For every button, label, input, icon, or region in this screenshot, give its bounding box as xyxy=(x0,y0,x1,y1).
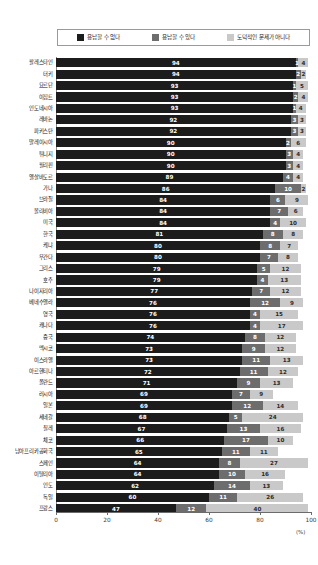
bar-segment-2[interactable]: 15 xyxy=(260,310,298,319)
bar-segment-0[interactable]: 86 xyxy=(56,184,275,193)
bar-segment-1[interactable]: 4 xyxy=(283,173,293,182)
bar-segment-1[interactable]: 4 xyxy=(270,218,280,227)
bar-segment-0[interactable]: 65 xyxy=(56,447,222,456)
bar-segment-1[interactable]: 10 xyxy=(219,470,245,479)
bar-segment-2[interactable]: 8 xyxy=(278,253,298,262)
bar-segment-2[interactable]: 24 xyxy=(242,413,303,422)
bar-segment-0[interactable]: 89 xyxy=(56,173,283,182)
legend-item-0[interactable]: 용납할 수 없다 xyxy=(77,34,120,41)
bar-segment-0[interactable]: 64 xyxy=(56,470,219,479)
bar-segment-0[interactable]: 74 xyxy=(56,333,245,342)
bar-segment-0[interactable]: 73 xyxy=(56,356,242,365)
bar-segment-0[interactable]: 76 xyxy=(56,321,250,330)
bar-segment-0[interactable]: 79 xyxy=(56,275,257,284)
bar-segment-2[interactable]: 17 xyxy=(260,321,303,330)
bar-segment-1[interactable]: 7 xyxy=(232,390,250,399)
legend-item-2[interactable]: 도덕적인 문제가 아니다 xyxy=(227,34,289,41)
bar-segment-2[interactable]: 6 xyxy=(288,207,303,216)
bar-segment-1[interactable]: 11 xyxy=(242,356,270,365)
bar-segment-0[interactable]: 66 xyxy=(56,436,224,445)
bar-segment-0[interactable]: 93 xyxy=(56,92,293,101)
bar-segment-1[interactable]: 6 xyxy=(270,195,285,204)
bar-segment-1[interactable]: 4 xyxy=(250,310,260,319)
bar-segment-0[interactable]: 76 xyxy=(56,298,250,307)
bar-segment-2[interactable]: 7 xyxy=(280,241,298,250)
bar-segment-2[interactable]: 4 xyxy=(296,104,306,113)
bar-segment-1[interactable]: 11 xyxy=(240,367,268,376)
bar-segment-2[interactable]: 4 xyxy=(293,161,303,170)
legend-item-1[interactable]: 용납할 수 있다 xyxy=(152,34,195,41)
bar-segment-2[interactable]: 10 xyxy=(280,218,306,227)
bar-segment-2[interactable]: 6 xyxy=(291,138,306,147)
bar-segment-1[interactable]: 9 xyxy=(242,344,265,353)
bar-segment-2[interactable]: 9 xyxy=(280,298,303,307)
bar-segment-2[interactable]: 14 xyxy=(263,401,299,410)
bar-segment-0[interactable]: 69 xyxy=(56,401,232,410)
bar-segment-2[interactable]: 12 xyxy=(268,367,299,376)
bar-segment-0[interactable]: 64 xyxy=(56,458,219,467)
bar-segment-0[interactable]: 84 xyxy=(56,207,270,216)
bar-segment-0[interactable]: 68 xyxy=(56,413,229,422)
bar-segment-2[interactable]: 27 xyxy=(240,458,309,467)
bar-segment-1[interactable]: 17 xyxy=(224,436,267,445)
bar-segment-2[interactable]: 16 xyxy=(260,424,301,433)
bar-segment-2[interactable]: 12 xyxy=(265,344,296,353)
bar-segment-1[interactable]: 10 xyxy=(275,184,301,193)
bar-segment-2[interactable]: 3 xyxy=(298,115,306,124)
bar-segment-0[interactable]: 62 xyxy=(56,481,214,490)
bar-segment-0[interactable]: 73 xyxy=(56,344,242,353)
bar-segment-2[interactable]: 9 xyxy=(250,390,273,399)
bar-segment-0[interactable]: 80 xyxy=(56,241,260,250)
bar-segment-0[interactable]: 72 xyxy=(56,367,240,376)
bar-segment-1[interactable]: 9 xyxy=(237,378,260,387)
bar-segment-1[interactable]: 7 xyxy=(260,253,278,262)
bar-segment-0[interactable]: 92 xyxy=(56,115,291,124)
bar-segment-1[interactable]: 13 xyxy=(227,424,260,433)
bar-segment-1[interactable]: 4 xyxy=(250,321,260,330)
bar-segment-2[interactable]: 12 xyxy=(265,333,296,342)
bar-segment-1[interactable]: 14 xyxy=(214,481,250,490)
bar-segment-0[interactable]: 93 xyxy=(56,81,293,90)
bar-segment-1[interactable]: 7 xyxy=(270,207,288,216)
bar-segment-2[interactable]: 4 xyxy=(298,92,308,101)
bar-segment-1[interactable]: 12 xyxy=(250,298,281,307)
bar-segment-0[interactable]: 90 xyxy=(56,161,286,170)
bar-segment-2[interactable]: 2 xyxy=(301,184,306,193)
bar-segment-1[interactable]: 4 xyxy=(257,275,267,284)
bar-segment-2[interactable]: 2 xyxy=(301,70,306,79)
bar-segment-2[interactable]: 13 xyxy=(270,356,303,365)
bar-segment-1[interactable]: 5 xyxy=(229,413,242,422)
bar-segment-2[interactable]: 4 xyxy=(293,173,303,182)
bar-segment-1[interactable]: 8 xyxy=(219,458,239,467)
bar-segment-0[interactable]: 90 xyxy=(56,138,286,147)
bar-segment-1[interactable]: 8 xyxy=(260,241,280,250)
bar-segment-0[interactable]: 77 xyxy=(56,287,252,296)
bar-segment-2[interactable]: 12 xyxy=(270,264,301,273)
bar-segment-2[interactable]: 8 xyxy=(283,230,303,239)
bar-segment-0[interactable]: 80 xyxy=(56,253,260,262)
bar-segment-0[interactable]: 94 xyxy=(56,58,296,67)
bar-segment-0[interactable]: 92 xyxy=(56,127,291,136)
bar-segment-2[interactable]: 11 xyxy=(250,447,278,456)
bar-segment-2[interactable]: 13 xyxy=(260,378,293,387)
bar-segment-1[interactable]: 7 xyxy=(252,287,270,296)
bar-segment-2[interactable]: 4 xyxy=(293,150,303,159)
bar-segment-1[interactable]: 8 xyxy=(263,230,283,239)
bar-segment-2[interactable]: 12 xyxy=(270,287,301,296)
bar-segment-1[interactable]: 12 xyxy=(232,401,263,410)
bar-segment-2[interactable]: 5 xyxy=(296,81,309,90)
bar-segment-2[interactable]: 13 xyxy=(250,481,283,490)
bar-segment-0[interactable]: 84 xyxy=(56,218,270,227)
bar-segment-1[interactable]: 3 xyxy=(286,161,294,170)
bar-segment-1[interactable]: 5 xyxy=(257,264,270,273)
bar-segment-2[interactable]: 16 xyxy=(245,470,286,479)
bar-segment-0[interactable]: 93 xyxy=(56,104,293,113)
bar-segment-2[interactable]: 13 xyxy=(268,275,301,284)
bar-segment-2[interactable]: 4 xyxy=(298,58,308,67)
bar-segment-1[interactable]: 3 xyxy=(291,127,299,136)
bar-segment-0[interactable]: 79 xyxy=(56,264,257,273)
bar-segment-0[interactable]: 84 xyxy=(56,195,270,204)
bar-segment-0[interactable]: 69 xyxy=(56,390,232,399)
bar-segment-2[interactable]: 3 xyxy=(298,127,306,136)
bar-segment-0[interactable]: 76 xyxy=(56,310,250,319)
